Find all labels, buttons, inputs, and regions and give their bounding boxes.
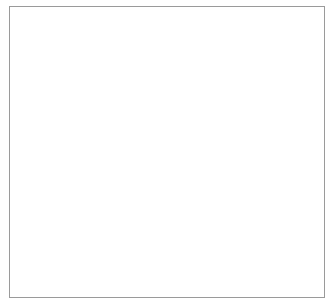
chart-figure: 0102030405060708090100 01234 Percent fre… (0, 0, 335, 307)
figure-frame (9, 6, 325, 298)
